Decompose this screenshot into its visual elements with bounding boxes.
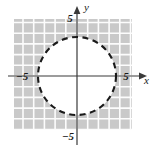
y-tick-label-positive-5: 5 — [67, 12, 73, 24]
x-tick-label-positive-5: 5 — [123, 70, 129, 82]
x-axis-label: x — [143, 74, 149, 86]
graph-figure: −5 5 5 −5 y x — [0, 0, 154, 153]
coordinate-plane-svg: −5 5 5 −5 y x — [0, 0, 154, 153]
y-axis-label: y — [83, 1, 89, 13]
x-tick-label-negative-5: −5 — [16, 70, 29, 82]
y-tick-label-negative-5: −5 — [62, 130, 75, 142]
y-axis-arrow-icon — [74, 6, 81, 14]
